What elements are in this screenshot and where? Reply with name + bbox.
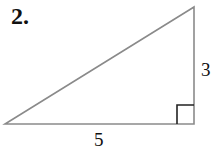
right-triangle-diagram: 3 5 [0, 0, 216, 163]
height-label: 3 [201, 59, 211, 80]
base-label: 5 [94, 129, 104, 150]
right-angle-marker [177, 105, 194, 124]
triangle-shape [5, 7, 194, 124]
